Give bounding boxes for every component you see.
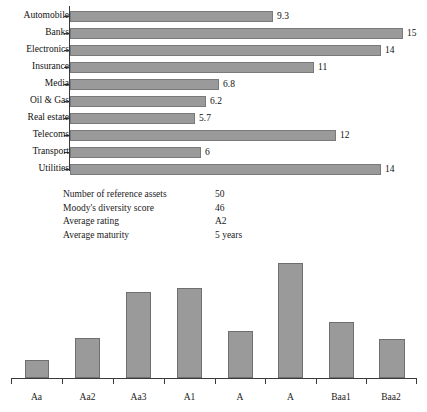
- bar-value-label: 9.3: [277, 10, 289, 23]
- axis-tick: [265, 379, 266, 384]
- summary-row-value: A2: [215, 215, 227, 228]
- bar-category-label: A1: [164, 391, 215, 403]
- summary-row-label: Number of reference assets: [63, 188, 167, 201]
- summary-row: Number of reference assets 50: [63, 188, 363, 202]
- axis-tick: [215, 379, 216, 384]
- summary-row-value: 5 years: [215, 229, 242, 242]
- axis-tick: [11, 379, 12, 384]
- bar-row: Real estate 5.7: [0, 110, 427, 127]
- bar-fill: [379, 339, 405, 378]
- bar-category-label: Real estate: [0, 112, 69, 123]
- bar-category-label: Insurance: [0, 61, 69, 72]
- bar-value-label: 14: [385, 163, 395, 176]
- portfolio-summary-table: Number of reference assets 50 Moody's di…: [63, 188, 363, 242]
- bar-fill: [70, 45, 381, 56]
- bar-value-label: 14: [385, 44, 395, 57]
- bar-value-label: 6.8: [223, 78, 235, 91]
- bar-fill: [70, 96, 206, 107]
- bar-fill: [70, 164, 381, 175]
- bar-category-label: Baa1: [316, 391, 366, 403]
- bar-row: Banks 15: [0, 25, 427, 42]
- bar-fill: [25, 360, 49, 378]
- bar-row: Utilities 14: [0, 161, 427, 178]
- summary-row-label: Average rating: [63, 215, 119, 228]
- bar-row: Media 6.8: [0, 76, 427, 93]
- summary-row: Average maturity 5 years: [63, 229, 363, 243]
- bar-row: Electronics 14: [0, 42, 427, 59]
- axis-tick: [113, 379, 114, 384]
- axis-tick: [316, 379, 317, 384]
- bar-category-label: Electronics: [0, 44, 69, 55]
- sector-exposure-bar-chart: Automobile 9.3 Banks 15 Electronics 14 I…: [0, 0, 427, 178]
- bar-category-label: A: [215, 391, 265, 403]
- summary-row-label: Moody's diversity score: [63, 202, 154, 215]
- bar-fill: [70, 147, 201, 158]
- value-axis-baseline: [11, 378, 417, 379]
- bar-fill: [70, 28, 403, 39]
- bar-category-label: A: [265, 391, 316, 403]
- bar-category-label: Aa2: [62, 391, 113, 403]
- bar-category-label: Utilities: [0, 163, 69, 174]
- bar-fill: [126, 292, 151, 378]
- bar-fill: [329, 322, 354, 378]
- bar-value-label: 6: [205, 146, 210, 159]
- bar-fill: [278, 263, 303, 378]
- bar-value-label: 5.7: [199, 112, 211, 125]
- bar-fill: [70, 130, 336, 141]
- axis-tick: [366, 379, 367, 384]
- bar-value-label: 12: [340, 129, 350, 142]
- bar-category-label: Media: [0, 78, 69, 89]
- bar-category-label: Oil & Gas: [0, 95, 69, 106]
- bar-category-label: Automobile: [0, 10, 69, 21]
- bar-category-label: Aa: [11, 391, 62, 403]
- bar-value-label: 15: [407, 27, 417, 40]
- bar-fill: [70, 11, 273, 22]
- bar-row: Insurance 11: [0, 59, 427, 76]
- bar-fill: [228, 331, 253, 378]
- summary-row-label: Average maturity: [63, 229, 129, 242]
- bar-fill: [70, 62, 314, 73]
- rating-distribution-bar-chart: Aa Aa2 Aa3 A1 A A Baa1 Baa2: [0, 252, 427, 412]
- bar-category-label: Aa3: [113, 391, 164, 403]
- bar-fill: [70, 79, 219, 90]
- bar-fill: [177, 288, 202, 378]
- bar-category-label: Transport: [0, 146, 69, 157]
- axis-tick: [416, 379, 417, 384]
- axis-tick: [164, 379, 165, 384]
- bar-value-label: 6.2: [210, 95, 222, 108]
- bar-fill: [70, 113, 195, 124]
- bar-row: Transport 6: [0, 144, 427, 161]
- axis-tick: [62, 379, 63, 384]
- bar-fill: [75, 338, 100, 378]
- bar-row: Telecoms 12: [0, 127, 427, 144]
- summary-row-value: 46: [215, 202, 225, 215]
- bar-row: Oil & Gas 6.2: [0, 93, 427, 110]
- bar-category-label: Banks: [0, 27, 69, 38]
- bar-row: Automobile 9.3: [0, 8, 427, 25]
- summary-row-value: 50: [215, 188, 225, 201]
- bar-value-label: 11: [318, 61, 327, 74]
- summary-row: Average rating A2: [63, 215, 363, 229]
- bar-category-label: Telecoms: [0, 129, 69, 140]
- bar-category-label: Baa2: [366, 391, 416, 403]
- summary-row: Moody's diversity score 46: [63, 202, 363, 216]
